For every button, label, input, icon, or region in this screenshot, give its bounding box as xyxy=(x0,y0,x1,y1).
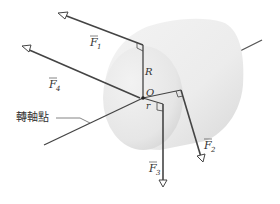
force-F2-arrowhead xyxy=(197,154,205,162)
force-F1-arrowhead xyxy=(58,12,68,19)
label-r: r xyxy=(146,101,151,111)
svg-text:3: 3 xyxy=(156,169,161,177)
svg-text:1: 1 xyxy=(97,43,101,51)
label-O: O xyxy=(146,87,154,98)
label-F4: F 4 xyxy=(48,78,60,93)
svg-text:2: 2 xyxy=(210,146,216,154)
force-F4-arrowhead xyxy=(22,45,31,52)
label-F2: F 2 xyxy=(203,139,216,154)
label-R: R xyxy=(144,66,153,77)
torque-diagram: F 1 F 4 F 2 F 3 R O r 轉軸點 xyxy=(0,0,280,204)
force-F3-arrowhead xyxy=(159,180,167,187)
force-F1-line xyxy=(64,15,143,45)
label-pivot: 轉軸點 xyxy=(16,110,49,124)
svg-text:4: 4 xyxy=(55,85,60,93)
label-F1: F 1 xyxy=(89,36,101,51)
pivot-point-O xyxy=(141,96,145,100)
pivot-leader-line xyxy=(56,118,90,123)
label-F3: F 3 xyxy=(148,162,161,177)
